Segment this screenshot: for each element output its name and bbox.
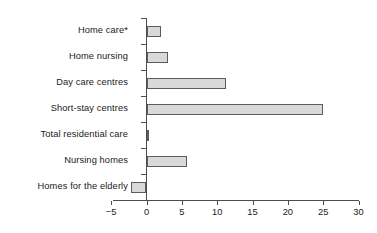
y-axis-tick <box>141 200 146 201</box>
x-axis-tick-label: 15 <box>238 206 268 218</box>
x-axis-tick <box>253 201 254 205</box>
x-axis-tick <box>288 201 289 205</box>
x-axis-tick <box>147 201 148 205</box>
bar <box>147 78 227 89</box>
y-axis-tick <box>141 70 146 71</box>
bar-chart: Home care*Home nursingDay care centresSh… <box>0 0 377 233</box>
bar <box>147 130 150 141</box>
bar <box>131 182 147 193</box>
y-axis-tick <box>141 148 146 149</box>
x-axis-tick-label: 30 <box>344 206 374 218</box>
x-axis-tick <box>182 201 183 205</box>
x-axis-tick-label: 25 <box>308 206 338 218</box>
bar <box>147 52 169 63</box>
x-axis-tick <box>359 201 360 205</box>
x-axis-tick <box>323 201 324 205</box>
y-axis-tick <box>141 96 146 97</box>
bar <box>147 26 161 37</box>
y-axis-tick <box>141 122 146 123</box>
x-axis-tick <box>111 201 112 205</box>
x-axis-line <box>113 200 359 201</box>
bar <box>147 156 188 167</box>
bar <box>147 104 324 115</box>
x-axis-tick-label: 0 <box>132 206 162 218</box>
x-axis-tick-label: −5 <box>96 206 126 218</box>
x-axis-tick <box>217 201 218 205</box>
plot-area: −5051015202530 <box>0 0 377 233</box>
y-axis-tick <box>141 44 146 45</box>
y-axis-tick <box>141 18 146 19</box>
y-axis-tick <box>141 174 146 175</box>
x-axis-tick-label: 20 <box>273 206 303 218</box>
x-axis-tick-label: 5 <box>167 206 197 218</box>
x-axis-tick-label: 10 <box>202 206 232 218</box>
